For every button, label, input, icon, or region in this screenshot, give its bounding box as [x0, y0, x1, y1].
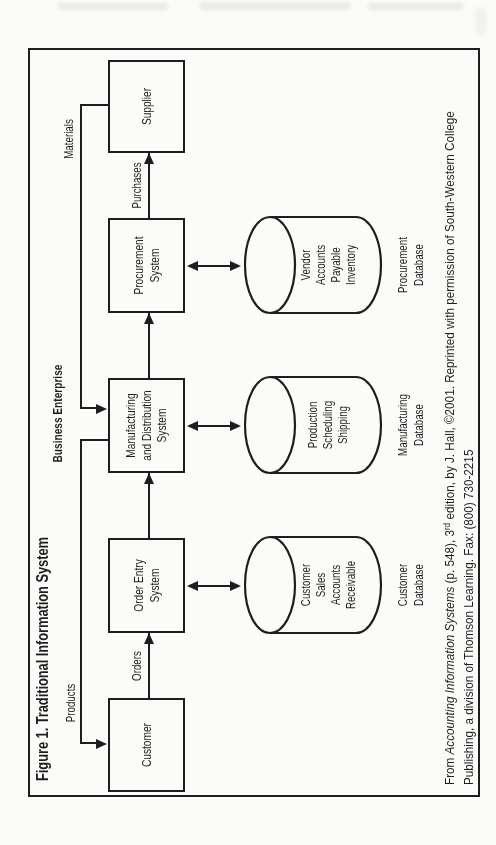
- manufacturing-db-contents: Production Scheduling Shipping: [306, 386, 351, 464]
- node-customer-label: Customer: [139, 710, 155, 780]
- arrow-manufacturing-manufacturing-db: [187, 420, 241, 432]
- products-line-riser-manufacturing: [80, 439, 108, 441]
- citation-rest: edition, by J. Hall, ©2001. Reprinted wi…: [442, 111, 457, 523]
- scanned-page: Figure 1. Traditional Information System…: [0, 0, 496, 845]
- citation: From Accounting Information Systems (p. …: [441, 111, 478, 785]
- arrow-order-entry-to-manufacturing: [148, 473, 150, 538]
- node-order-entry-label: Order Entry System: [131, 550, 162, 621]
- purchases-label: Purchases: [130, 152, 144, 218]
- customer-database-name: Customer Database: [396, 538, 427, 632]
- node-manufacturing-label: Manufacturing and Distribution System: [123, 390, 170, 461]
- manufacturing-database-name: Manufacturing Database: [396, 378, 427, 472]
- materials-line-riser-supplier: [80, 104, 108, 106]
- citation-prefix: From: [442, 754, 457, 785]
- products-line-horizontal: [80, 439, 82, 743]
- arrow-manufacturing-to-procurement: [148, 313, 150, 378]
- materials-label: Materials: [62, 108, 76, 170]
- citation-ordinal: rd: [442, 523, 452, 530]
- node-order-entry-system: Order Entry System: [108, 538, 185, 633]
- products-label: Products: [64, 672, 78, 734]
- business-enterprise-label: Business Enterprise: [50, 388, 65, 463]
- node-procurement-label: Procurement System: [131, 230, 162, 301]
- arrow-customer-to-order-entry: [148, 633, 150, 698]
- materials-arrowhead-icon: [96, 404, 107, 414]
- node-supplier-label: Supplier: [139, 72, 155, 141]
- materials-line-horizontal: [80, 104, 82, 409]
- arrow-procurement-procurement-db: [187, 260, 241, 272]
- arrow-order-entry-customer-db: [187, 580, 241, 592]
- procurement-database-name: Procurement Database: [396, 218, 427, 312]
- arrow-procurement-to-supplier: [148, 153, 150, 218]
- procurement-db-contents: Vendor Accounts Payable Inventory: [299, 226, 359, 304]
- citation-middle: (p. 548), 3: [442, 530, 457, 587]
- node-manufacturing-system: Manufacturing and Distribution System: [108, 378, 185, 473]
- figure-title: Figure 1. Traditional Information System: [33, 537, 53, 781]
- citation-line-2: Publishing, a division of Thomson Learni…: [460, 111, 479, 785]
- citation-book-title: Accounting Information Systems: [442, 587, 457, 755]
- products-arrowhead-icon: [96, 739, 107, 749]
- customer-db-contents: Customer Sales Accounts Receivable: [299, 546, 359, 624]
- orders-label: Orders: [130, 635, 144, 697]
- node-supplier: Supplier: [108, 60, 185, 153]
- node-customer: Customer: [108, 698, 185, 792]
- figure-rotated-stage: Figure 1. Traditional Information System…: [0, 0, 496, 845]
- node-procurement-system: Procurement System: [108, 218, 185, 313]
- citation-line-1: From Accounting Information Systems (p. …: [441, 111, 460, 785]
